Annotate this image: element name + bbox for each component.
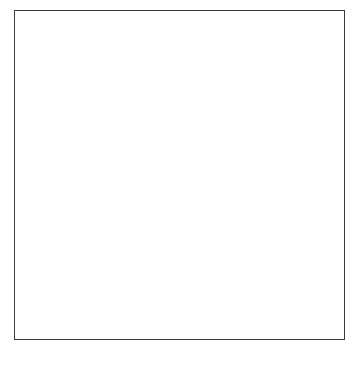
diagram-canvas [0,0,362,366]
arch-vault-diagram [0,0,362,366]
diagram-frame [15,11,345,340]
